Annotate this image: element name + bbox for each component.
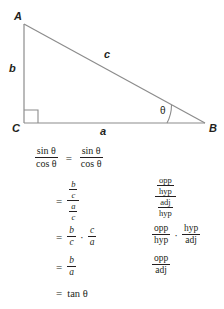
angle-arc-theta-icon: [167, 105, 172, 123]
fraction-denominator: c: [69, 190, 77, 199]
side-label-opposite-b: b: [9, 63, 16, 74]
fraction-numerator: opp: [152, 254, 170, 265]
right-angle-marker-icon: [24, 110, 38, 123]
derivation-row-3-left: = b c · c a: [56, 226, 96, 248]
complex-fraction-numerator: b c: [67, 180, 79, 201]
derivation-row-2-left: = b c a c: [56, 180, 79, 222]
equals-sign-row-3: =: [56, 231, 67, 243]
fraction-opp-over-hyp: opp hyp: [152, 224, 170, 246]
fraction-numerator: c: [88, 226, 96, 237]
derivation-row-1: sin θ cos θ = sin θ cos θ: [34, 146, 103, 169]
triangle-side-c-line: [24, 24, 205, 123]
fraction-denominator: c: [69, 212, 77, 221]
equals-sign-row-5: =: [56, 287, 67, 299]
angle-label-theta: θ: [160, 106, 166, 116]
vertex-label-b: B: [209, 123, 217, 134]
fraction-denominator: hyp: [157, 208, 174, 217]
fraction-denominator: hyp: [157, 186, 174, 195]
fraction-numerator: opp: [152, 224, 170, 235]
fraction-numerator: hyp: [182, 224, 200, 235]
inner-fraction-adj-over-hyp: adj hyp: [157, 198, 174, 218]
complex-fraction-b-c-over-a-c: b c a c: [67, 180, 79, 222]
vertex-label-c: C: [12, 123, 20, 134]
fraction-denominator: a: [67, 267, 76, 277]
equals-sign-row-2: =: [56, 195, 67, 207]
trigonometry-figure-page: A C B b c a θ sin θ cos θ = sin θ cos θ …: [0, 0, 224, 309]
equals-sign-row-1: =: [59, 152, 79, 164]
complex-fraction-denominator: a c: [67, 201, 79, 221]
fraction-numerator: a: [69, 202, 77, 212]
fraction-denominator: cos θ: [34, 158, 59, 169]
fraction-c-over-a: c a: [88, 226, 97, 248]
fraction-denominator: cos θ: [79, 158, 104, 169]
triangle-svg: [0, 0, 224, 140]
fraction-sin-over-cos-left: sin θ cos θ: [34, 146, 59, 169]
equals-sign-row-4: =: [56, 261, 67, 273]
fraction-denominator: a: [88, 237, 97, 247]
complex-fraction-numerator: opp hyp: [155, 176, 176, 197]
multiplication-dot-left: ·: [76, 231, 88, 243]
fraction-numerator: b: [67, 256, 76, 267]
fraction-numerator: b: [69, 180, 77, 190]
multiplication-dot-right: ·: [170, 229, 182, 241]
fraction-denominator: adj: [183, 235, 199, 245]
derivation-row-5-left: = tan θ: [56, 287, 88, 299]
complex-fraction-opp-hyp-over-adj-hyp: opp hyp adj hyp: [155, 176, 176, 218]
fraction-hyp-over-adj: hyp adj: [182, 224, 200, 246]
fraction-numerator: b: [67, 226, 76, 237]
fraction-denominator: adj: [153, 265, 169, 275]
tangent-result-text: tan θ: [67, 288, 87, 299]
fraction-opp-over-adj: opp adj: [152, 254, 170, 276]
fraction-denominator: c: [67, 237, 75, 247]
fraction-b-over-a: b a: [67, 256, 76, 278]
fraction-b-over-c: b c: [67, 226, 76, 248]
triangle-diagram: A C B b c a θ: [0, 0, 224, 140]
fraction-numerator: sin θ: [35, 146, 58, 158]
vertex-label-a: A: [14, 11, 22, 22]
fraction-denominator: hyp: [152, 235, 170, 245]
inner-fraction-b-over-c: b c: [69, 180, 77, 200]
fraction-numerator: adj: [158, 198, 172, 208]
side-label-adjacent-a: a: [100, 126, 106, 137]
fraction-sin-over-cos-right: sin θ cos θ: [79, 146, 104, 169]
side-label-hypotenuse-c: c: [104, 49, 110, 60]
derivation-row-2-right: opp hyp adj hyp: [155, 176, 176, 218]
derivation-row-3-right: opp hyp · hyp adj: [152, 224, 200, 246]
fraction-numerator: sin θ: [80, 146, 103, 158]
complex-fraction-denominator: adj hyp: [155, 197, 176, 217]
derivation-row-4-right: opp adj: [152, 254, 170, 276]
inner-fraction-opp-over-hyp: opp hyp: [157, 176, 174, 196]
fraction-numerator: opp: [157, 176, 174, 186]
inner-fraction-a-over-c: a c: [69, 202, 77, 222]
derivation-row-4-left: = b a: [56, 256, 76, 278]
tangent-derivation: sin θ cos θ = sin θ cos θ = b c: [0, 140, 224, 309]
